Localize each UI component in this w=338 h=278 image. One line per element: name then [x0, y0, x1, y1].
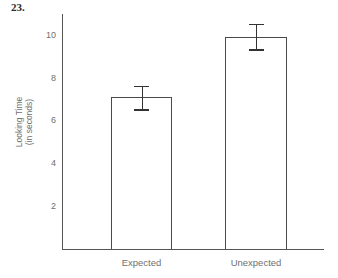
- bar-chart-plot-area: Looking Time (in seconds) 2 4 6 8 10 Exp…: [0, 0, 338, 278]
- error-bar-line-unexpected: [256, 24, 257, 50]
- y-axis-title: Looking Time (in seconds): [14, 85, 34, 159]
- y-axis-title-line-1: Looking Time: [14, 85, 24, 159]
- error-bar-cap-top-expected: [134, 86, 149, 88]
- x-tick-label-expected: Expected: [92, 257, 192, 268]
- error-bar-cap-bottom-expected: [134, 109, 149, 111]
- bar-expected: [111, 97, 172, 249]
- bar-unexpected: [225, 37, 287, 249]
- y-tick-label: 6: [36, 116, 56, 125]
- x-axis-line: [62, 249, 324, 250]
- y-axis-title-line-2: (in seconds): [24, 85, 34, 159]
- x-tick-label-unexpected: Unexpected: [206, 257, 306, 268]
- error-bar-cap-top-unexpected: [249, 24, 264, 26]
- y-tick-label: 10: [36, 31, 56, 40]
- y-tick-label: 2: [36, 202, 56, 211]
- y-tick-label: 4: [36, 159, 56, 168]
- figure-container: 23. Looking Time (in seconds) 2 4 6 8 10…: [0, 0, 338, 278]
- error-bar-line-expected: [142, 86, 143, 109]
- y-axis-line: [62, 14, 63, 250]
- y-tick-label: 8: [36, 74, 56, 83]
- error-bar-cap-bottom-unexpected: [249, 49, 264, 51]
